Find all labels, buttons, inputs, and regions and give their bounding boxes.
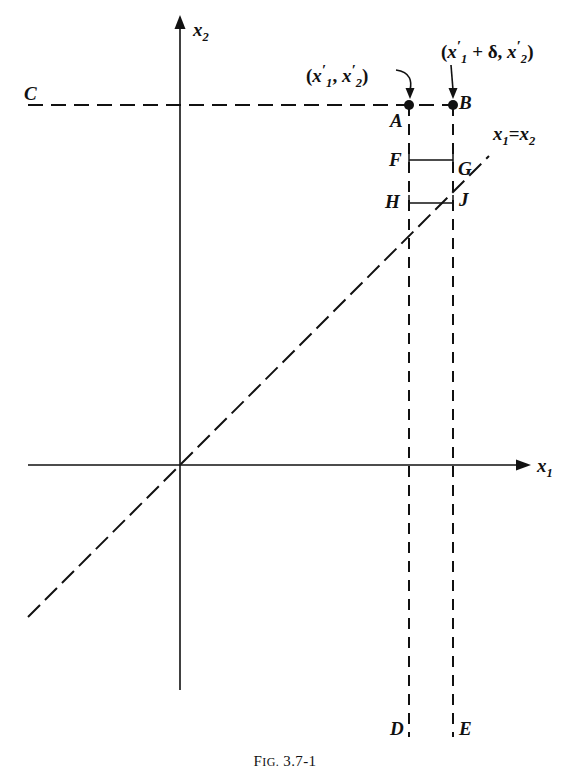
diagram-canvas — [0, 0, 570, 784]
annotation-arrow-a — [396, 70, 415, 99]
point-b-marker — [448, 100, 458, 110]
caption-number: 3.7-1 — [279, 753, 316, 769]
point-label-h: H — [385, 192, 400, 211]
point-label-j: J — [459, 190, 469, 209]
figure-caption: FIG. 3.7-1 — [0, 753, 570, 770]
y-axis-label: x2 — [193, 20, 209, 43]
point-label-e: E — [459, 719, 472, 738]
segment-fg — [409, 152, 453, 168]
point-a-marker — [404, 100, 414, 110]
x1-axis — [28, 460, 531, 471]
point-label-g: G — [458, 159, 472, 178]
figure-container: x2 x1 x1=x2 (x′1, x′2) (x′1 + δ, x′2) C … — [0, 0, 570, 784]
annotation-arrow-b — [449, 65, 458, 99]
caption-prefix: F — [253, 753, 262, 769]
point-label-a: A — [390, 111, 403, 130]
x2-axis — [175, 15, 186, 690]
point-a-coordinate-label: (x′1, x′2) — [306, 62, 368, 90]
point-label-c: C — [24, 84, 37, 103]
point-label-f: F — [389, 150, 402, 169]
diagonal-line-label: x1=x2 — [493, 124, 535, 147]
point-label-b: B — [459, 93, 472, 112]
point-b-coordinate-label: (x′1 + δ, x′2) — [441, 38, 533, 66]
caption-smallcaps: IG. — [262, 755, 279, 769]
x-axis-label: x1 — [537, 456, 553, 479]
point-label-d: D — [390, 719, 404, 738]
diagonal-line-x1-equals-x2 — [28, 156, 489, 617]
